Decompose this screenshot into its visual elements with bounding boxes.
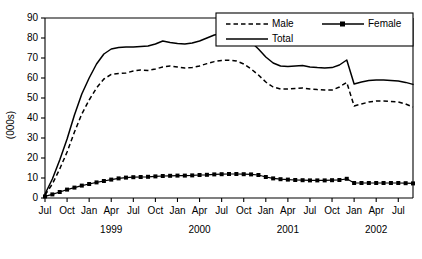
- x-axis-tick-label: Jul: [215, 205, 228, 216]
- chart-container: 0102030405060708090 JulOctJanAprJulOctJa…: [0, 0, 422, 259]
- series-marker-female: [109, 178, 113, 182]
- series-marker-female: [374, 181, 378, 185]
- y-axis-tick-label: 20: [27, 152, 39, 163]
- series-marker-female: [271, 176, 275, 180]
- series-marker-female: [146, 175, 150, 179]
- series-marker-female: [359, 181, 363, 185]
- x-axis-tick-label: Oct: [236, 205, 252, 216]
- series-marker-female: [72, 186, 76, 190]
- series-marker-female: [330, 178, 334, 182]
- series-marker-female: [256, 173, 260, 177]
- series-marker-female: [131, 175, 135, 179]
- x-axis-tick-label: Jan: [81, 205, 97, 216]
- series-marker-female: [102, 179, 106, 183]
- x-axis-tick-label: Jul: [39, 205, 52, 216]
- y-axis-title: (000s): [5, 111, 16, 139]
- series-marker-female: [382, 181, 386, 185]
- x-axis-tick-label: Oct: [59, 205, 75, 216]
- y-axis-tick-label: 0: [32, 192, 38, 203]
- series-marker-female: [168, 174, 172, 178]
- series-marker-female: [50, 192, 54, 196]
- y-axis-tick-label: 30: [27, 132, 39, 143]
- x-axis-tick-label: Apr: [103, 205, 119, 216]
- y-axis: 0102030405060708090: [27, 12, 45, 203]
- legend-label-total: Total: [272, 33, 293, 44]
- series-marker-female: [404, 181, 408, 185]
- x-axis-tick-label: Jan: [346, 205, 362, 216]
- x-axis-year-label: 2000: [188, 224, 211, 235]
- series-marker-female: [308, 178, 312, 182]
- x-axis-tick-label: Oct: [324, 205, 340, 216]
- series-marker-female: [183, 174, 187, 178]
- y-axis-tick-label: 80: [27, 32, 39, 43]
- series-marker-female: [205, 173, 209, 177]
- chart-legend: MaleFemaleTotal: [216, 13, 413, 46]
- series-marker-female: [80, 184, 84, 188]
- series-marker-female: [153, 174, 157, 178]
- legend-label-female: Female: [368, 18, 402, 29]
- series-marker-female: [65, 188, 69, 192]
- series-marker-female: [337, 178, 341, 182]
- series-marker-female: [220, 172, 224, 176]
- y-axis-tick-label: 50: [27, 92, 39, 103]
- x-axis: JulOctJanAprJulOctJanAprJulOctJanAprJulO…: [39, 18, 413, 216]
- series-marker-female: [87, 182, 91, 186]
- legend-marker-female: [340, 22, 345, 27]
- series-marker-female: [323, 178, 327, 182]
- line-chart: 0102030405060708090 JulOctJanAprJulOctJa…: [0, 0, 422, 259]
- x-axis-tick-label: Apr: [368, 205, 384, 216]
- series-marker-female: [58, 190, 62, 194]
- series-marker-female: [161, 174, 165, 178]
- x-axis-tick-label: Jan: [258, 205, 274, 216]
- series-marker-female: [95, 180, 99, 184]
- series-marker-female: [212, 172, 216, 176]
- x-axis-year-label: 1999: [100, 224, 123, 235]
- series-marker-female: [175, 174, 179, 178]
- x-axis-tick-label: Apr: [280, 205, 296, 216]
- y-axis-tick-label: 60: [27, 72, 39, 83]
- series-layer: [43, 33, 415, 198]
- y-axis-tick-label: 10: [27, 172, 39, 183]
- y-axis-tick-label: 70: [27, 52, 39, 63]
- series-marker-female: [367, 181, 371, 185]
- series-marker-female: [242, 172, 246, 176]
- series-marker-female: [389, 181, 393, 185]
- y-axis-tick-label: 90: [27, 12, 39, 23]
- series-marker-female: [279, 177, 283, 181]
- series-marker-female: [352, 181, 356, 185]
- x-axis-year-labels: 1999200020012002: [100, 224, 388, 235]
- x-axis-tick-label: Jan: [169, 205, 185, 216]
- x-axis-tick-label: Apr: [192, 205, 208, 216]
- series-marker-female: [264, 175, 268, 179]
- series-line-total: [45, 33, 413, 194]
- series-marker-female: [293, 178, 297, 182]
- series-marker-female: [124, 176, 128, 180]
- x-axis-tick-label: Jul: [304, 205, 317, 216]
- y-axis-tick-label: 40: [27, 112, 39, 123]
- series-marker-female: [227, 172, 231, 176]
- series-marker-female: [315, 178, 319, 182]
- series-marker-female: [301, 178, 305, 182]
- series-marker-female: [234, 172, 238, 176]
- series-line-female: [45, 174, 413, 196]
- series-marker-female: [198, 173, 202, 177]
- series-marker-female: [43, 194, 47, 198]
- series-marker-female: [345, 177, 349, 181]
- series-marker-female: [249, 172, 253, 176]
- x-axis-tick-label: Jul: [127, 205, 140, 216]
- x-axis-tick-label: Jul: [392, 205, 405, 216]
- series-marker-female: [139, 175, 143, 179]
- series-marker-female: [286, 178, 290, 182]
- series-marker-female: [117, 176, 121, 180]
- x-axis-year-label: 2002: [365, 224, 388, 235]
- legend-label-male: Male: [272, 18, 294, 29]
- x-axis-year-label: 2001: [277, 224, 300, 235]
- series-marker-female: [190, 173, 194, 177]
- series-marker-female: [396, 181, 400, 185]
- x-axis-tick-label: Oct: [148, 205, 164, 216]
- series-marker-female: [411, 181, 415, 185]
